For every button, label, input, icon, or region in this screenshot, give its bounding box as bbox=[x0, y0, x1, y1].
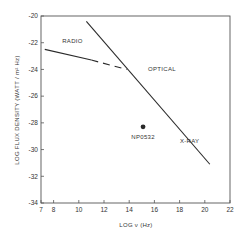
series-line-radio bbox=[45, 49, 92, 60]
annotation-radio: RADIO bbox=[62, 38, 83, 44]
x-tick-label: 18 bbox=[176, 206, 184, 213]
x-tick-label: 20 bbox=[201, 206, 209, 213]
x-tick-label: 22 bbox=[226, 206, 234, 213]
x-tick-label: 14 bbox=[126, 206, 134, 213]
y-tick-label: -30 bbox=[29, 146, 39, 153]
x-tick-label: 12 bbox=[100, 206, 108, 213]
data-point-np0532 bbox=[141, 124, 146, 129]
y-tick-label: -26 bbox=[29, 92, 39, 99]
chart-canvas: 7810121416182022 -20-22-24-26-28-30-32-3… bbox=[0, 0, 243, 241]
y-tick-label: -28 bbox=[29, 119, 39, 126]
y-tick-label: -32 bbox=[29, 173, 39, 180]
plot-frame bbox=[41, 16, 230, 203]
x-axis-label: LOG ν (Hz) bbox=[119, 222, 152, 228]
plot-border bbox=[41, 16, 230, 203]
y-tick-label: -34 bbox=[29, 199, 39, 206]
y-axis-label: LOG FLUX DENSITY (WATT / m² Hz) bbox=[14, 55, 20, 164]
x-tick-label: 10 bbox=[75, 206, 83, 213]
data-points bbox=[141, 124, 146, 129]
y-axis-ticks: -20-22-24-26-28-30-32-34 bbox=[29, 12, 44, 206]
x-tick-label: 16 bbox=[151, 206, 159, 213]
x-tick-label: 8 bbox=[52, 206, 56, 213]
y-tick-label: -22 bbox=[29, 39, 39, 46]
y-tick-label: -24 bbox=[29, 66, 39, 73]
flux-density-chart: 7810121416182022 -20-22-24-26-28-30-32-3… bbox=[0, 0, 243, 241]
annotation-np0532: NP0532 bbox=[131, 134, 155, 140]
annotation-x-ray: X-RAY bbox=[180, 138, 199, 144]
x-tick-label: 7 bbox=[39, 206, 43, 213]
y-tick-label: -20 bbox=[29, 12, 39, 19]
annotation-optical: OPTICAL bbox=[148, 66, 176, 72]
x-axis-ticks: 7810121416182022 bbox=[39, 200, 234, 213]
